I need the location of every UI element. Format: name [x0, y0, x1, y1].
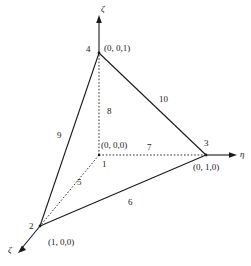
edge-number-10: 10: [159, 95, 168, 104]
node-coords-1: (0, 0,0): [101, 141, 127, 150]
edge-number-9: 9: [57, 131, 62, 140]
edge-line-6: [40, 155, 206, 226]
edge-line-9: [40, 53, 99, 226]
node-dot-3: [205, 154, 208, 157]
edge-line-5: [40, 155, 99, 226]
node-dot-2: [39, 225, 42, 228]
node-number-3: 3: [204, 139, 209, 148]
node-number-4: 4: [86, 45, 91, 54]
node-coords-3: (0, 1,0): [193, 163, 219, 172]
axis-label-eta: η: [240, 150, 244, 159]
tetrahedron-figure: ζ η ζ 4 (0, 0,1) 3 (0, 1,0) 2 (1, 0,0) (…: [0, 0, 251, 266]
axis-label-xi: ζ: [8, 246, 12, 255]
node-coords-2: (1, 0,0): [48, 238, 74, 247]
axis-eta-arrow: [206, 152, 237, 158]
edge-number-7: 7: [147, 143, 152, 152]
edge-number-6: 6: [128, 198, 133, 207]
node-number-2: 2: [29, 222, 34, 231]
node-dot-1: [98, 154, 100, 156]
edge-number-8: 8: [107, 107, 112, 116]
node-dot-4: [98, 52, 101, 55]
node-coords-4: (0, 0,1): [104, 44, 130, 53]
edge-number-5: 5: [77, 178, 82, 187]
tetrahedron-diagram: [0, 0, 251, 266]
node-number-1: 1: [102, 160, 107, 169]
axis-label-zeta-vertical: ζ: [101, 5, 105, 14]
axis-zeta-vertical-arrow: [96, 15, 102, 53]
